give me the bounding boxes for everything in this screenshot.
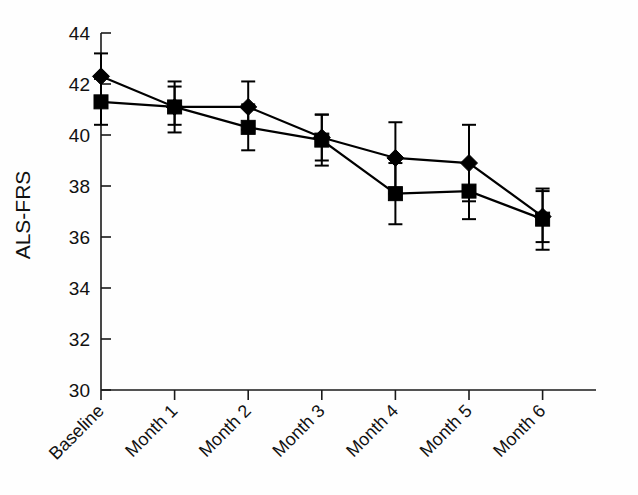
data-point-marker [462, 184, 476, 198]
x-tick-label: Month 4 [342, 401, 402, 461]
y-tick-label: 44 [69, 23, 91, 44]
x-tick-label: Month 3 [268, 401, 328, 461]
data-point-marker [168, 100, 182, 114]
y-tick-mark-group [101, 33, 111, 390]
als-frs-line-chart: ALS-FRS 3032343638404244 BaselineMonth 1… [0, 0, 638, 495]
x-tick-label: Baseline [45, 401, 108, 464]
data-point-marker [388, 187, 402, 201]
y-tick-label: 40 [69, 125, 90, 146]
y-tick-label: 32 [69, 329, 90, 350]
y-tick-label: 38 [69, 176, 90, 197]
chart-figure: ALS-FRS 3032343638404244 BaselineMonth 1… [0, 0, 638, 495]
data-point-marker [94, 95, 108, 109]
data-point-marker [241, 120, 255, 134]
data-point-marker [315, 133, 329, 147]
x-tick-label: Month 6 [489, 401, 549, 461]
x-tick-label-group: BaselineMonth 1Month 2Month 3Month 4Mont… [45, 401, 550, 464]
y-tick-label-group: 3032343638404244 [69, 23, 91, 401]
x-tick-label: Month 5 [416, 401, 476, 461]
data-series-layer [93, 53, 552, 249]
data-point-marker [536, 212, 550, 226]
y-tick-label: 42 [69, 74, 90, 95]
y-axis-title-group: ALS-FRS [11, 171, 34, 260]
x-tick-label: Month 1 [121, 401, 181, 461]
y-tick-label: 30 [69, 380, 90, 401]
x-tick-label: Month 2 [195, 401, 255, 461]
series-square-series [94, 79, 550, 250]
x-tick-mark-group [101, 390, 543, 400]
y-axis-title: ALS-FRS [11, 171, 34, 260]
y-tick-label: 36 [69, 227, 90, 248]
y-tick-label: 34 [69, 278, 91, 299]
